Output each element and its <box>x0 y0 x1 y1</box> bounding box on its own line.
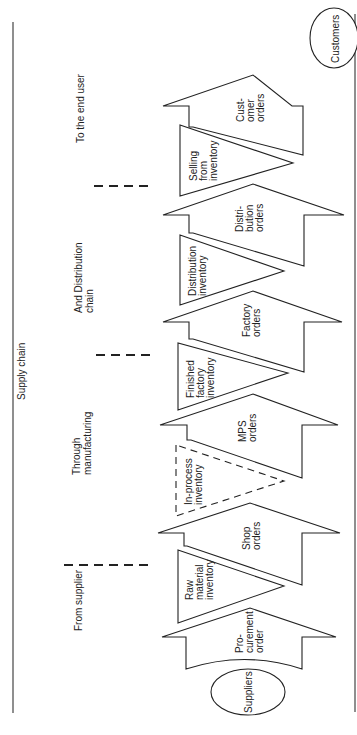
svg-text:orders: orders <box>251 309 262 337</box>
suppliers-label: Suppliers <box>243 671 254 713</box>
supply-chain-diagram: Supply chain To the end user And Distrib… <box>0 0 357 735</box>
svg-text:order: order <box>254 629 265 653</box>
svg-text:Through: Through <box>71 438 82 475</box>
svg-text:inventory: inventory <box>208 140 219 181</box>
svg-text:inventory: inventory <box>204 559 215 600</box>
customers-label: Customers <box>330 15 341 63</box>
svg-text:orders: orders <box>255 94 266 122</box>
svg-text:orders: orders <box>247 414 258 442</box>
factory-orders-label: Factory orders <box>241 304 262 337</box>
stage-label-to-end-user: To the end user <box>75 73 86 143</box>
svg-text:orders: orders <box>254 204 265 232</box>
distribution-orders-label: Distri- bution orders <box>234 204 265 232</box>
svg-text:orders: orders <box>251 522 262 550</box>
svg-text:chain: chain <box>84 289 95 313</box>
diagram-title: Supply chain <box>16 343 27 400</box>
stage-label-distribution: And Distribution chain <box>73 242 95 313</box>
svg-text:manufacturing: manufacturing <box>82 412 93 475</box>
svg-text:inventory: inventory <box>205 357 216 398</box>
stage-label-manufacturing: Through manufacturing <box>71 412 93 475</box>
stage-label-from-supplier: From supplier <box>73 569 84 631</box>
svg-text:And Distribution: And Distribution <box>73 242 84 313</box>
svg-text:inventory: inventory <box>197 255 208 296</box>
in-process-inventory-label: In-process inventory <box>183 458 204 505</box>
svg-text:inventory: inventory <box>193 464 204 505</box>
